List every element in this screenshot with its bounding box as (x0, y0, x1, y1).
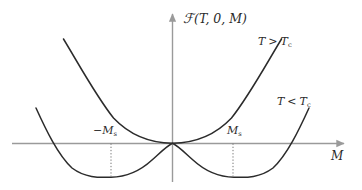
annotation-t-greater-tc: T>Tc (258, 36, 292, 49)
y-axis-label: ℱ(T, 0, M) (183, 12, 247, 26)
tick-label-ms-negative: −Ms (93, 125, 117, 138)
annotation-below-var1: T (277, 95, 284, 108)
ms-positive-subscript: s (238, 130, 242, 138)
annotation-above-relation: > (268, 35, 277, 48)
ms-positive-symbol: M (227, 124, 238, 137)
script-f-symbol: ℱ (183, 10, 194, 26)
annotation-below-subscript: c (307, 101, 311, 109)
annotation-above-var2: T (281, 35, 288, 48)
annotation-above-subscript: c (288, 41, 292, 49)
ms-negative-subscript: s (113, 130, 117, 138)
minus-sign: − (93, 124, 102, 137)
annotation-above-var1: T (258, 35, 265, 48)
annotation-below-var2: T (300, 95, 307, 108)
annotation-t-less-tc: T<Tc (277, 96, 311, 109)
plot-canvas (0, 0, 362, 190)
ms-negative-symbol: M (102, 124, 113, 137)
x-axis-label: M (331, 150, 343, 162)
free-energy-landscape-figure: ℱ(T, 0, M) T>Tc T<Tc −Ms Ms M (0, 0, 362, 190)
annotation-below-relation: < (287, 95, 296, 108)
tick-label-ms-positive: Ms (227, 125, 242, 138)
y-axis-label-args: (T, 0, M) (194, 11, 247, 26)
